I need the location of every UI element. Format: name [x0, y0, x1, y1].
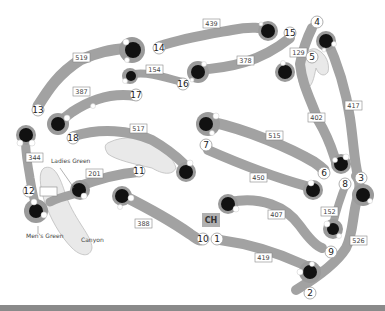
svg-text:402: 402 [310, 114, 322, 122]
svg-text:439: 439 [205, 20, 217, 28]
hole-marker-1[interactable]: 1 [211, 233, 223, 245]
fairway-hole-16 [134, 74, 182, 82]
svg-text:519: 519 [75, 54, 87, 62]
svg-text:378: 378 [239, 57, 251, 65]
hole-marker-12[interactable]: 12 [23, 185, 35, 197]
yardage-box-402: 402 [308, 113, 325, 122]
hole-marker-11[interactable]: 11 [133, 165, 145, 177]
hole-marker-6[interactable]: 6 [318, 167, 330, 179]
hole-marker-14[interactable]: 14 [153, 42, 165, 54]
svg-text:526: 526 [352, 237, 364, 245]
yardage-box-517: 517 [130, 124, 147, 133]
yardage-box-388: 388 [135, 219, 152, 228]
svg-text:515: 515 [268, 132, 280, 140]
svg-text:8: 8 [342, 179, 348, 189]
hole-marker-9[interactable]: 9 [325, 246, 337, 258]
svg-text:387: 387 [75, 88, 87, 96]
fairway-hole-14 [160, 28, 270, 46]
svg-text:152: 152 [323, 208, 335, 216]
svg-text:15: 15 [284, 28, 295, 38]
hole-marker-17[interactable]: 17 [130, 89, 142, 101]
green-hole-11 [70, 180, 90, 200]
svg-text:450: 450 [252, 174, 264, 182]
hole-marker-15[interactable]: 15 [284, 27, 296, 39]
hole-marker-4[interactable]: 4 [311, 16, 323, 28]
green-hole-16 [122, 68, 138, 84]
yardage-box-419: 419 [255, 253, 272, 262]
yardage-box-344 [40, 187, 57, 196]
yardage-box-515: 515 [266, 131, 283, 140]
green-hole-4 [275, 61, 295, 83]
green-hole-12 [16, 125, 36, 146]
svg-text:344: 344 [28, 154, 40, 162]
hole-marker-18[interactable]: 18 [67, 132, 79, 144]
green-hole-14-end [258, 21, 278, 41]
hole-marker-13[interactable]: 13 [32, 104, 44, 116]
svg-text:1: 1 [214, 234, 220, 244]
svg-text:2: 2 [307, 288, 313, 298]
green-hole-7 [303, 180, 323, 200]
svg-text:16: 16 [177, 79, 189, 89]
green-hole-13 [119, 37, 145, 63]
fairway-hole-10 [124, 196, 200, 240]
green-hole-18 [112, 186, 134, 210]
svg-text:10: 10 [197, 234, 209, 244]
svg-text:417: 417 [347, 102, 359, 110]
yardage-box-378: 378 [237, 56, 254, 65]
yardage-box-439: 439 [203, 19, 220, 28]
svg-text:6: 6 [321, 168, 327, 178]
hole-marker-5[interactable]: 5 [306, 51, 318, 63]
green-hole-2 [352, 184, 374, 206]
yardage-box-450: 450 [250, 173, 267, 182]
hole-marker-3[interactable]: 3 [355, 172, 367, 184]
hole-marker-10[interactable]: 10 [197, 233, 209, 245]
yardage-box-417: 417 [345, 101, 362, 110]
svg-text:11: 11 [133, 166, 144, 176]
hole-marker-8[interactable]: 8 [339, 178, 351, 190]
green-hole-10 [24, 199, 48, 223]
svg-text:4: 4 [314, 17, 320, 27]
hole-marker-2[interactable]: 2 [304, 287, 316, 299]
svg-text:388: 388 [137, 220, 149, 228]
golf-course-map: Ladies Green Men's Green Canyon CH 519 4… [0, 0, 385, 311]
svg-text:3: 3 [358, 173, 364, 183]
yardage-box-387: 387 [73, 87, 90, 96]
svg-text:407: 407 [270, 211, 282, 219]
yardage-box-197: 344 [26, 153, 43, 162]
svg-text:419: 419 [257, 254, 269, 262]
yardage-box-129: 129 [290, 48, 307, 57]
svg-text:12: 12 [23, 186, 34, 196]
svg-text:201: 201 [88, 170, 100, 178]
yardage-box-407: 407 [268, 210, 285, 219]
svg-text:17: 17 [130, 90, 141, 100]
svg-text:7: 7 [203, 140, 209, 150]
yardage-box-201: 201 [86, 169, 103, 178]
clubhouse-label: CH [205, 216, 218, 225]
svg-text:154: 154 [148, 66, 160, 74]
hole-marker-16[interactable]: 16 [177, 78, 189, 90]
canyon-label: Canyon [81, 236, 104, 244]
yardage-box-154: 154 [146, 65, 163, 74]
ladies-green-label: Ladies Green [51, 157, 91, 164]
svg-text:14: 14 [153, 43, 165, 53]
svg-text:13: 13 [32, 105, 43, 115]
yardage-box-526: 526 [350, 236, 367, 245]
yardage-box-152: 152 [321, 207, 338, 216]
svg-text:9: 9 [328, 247, 334, 257]
yardage-box-519: 519 [73, 53, 90, 62]
svg-text:517: 517 [132, 125, 144, 133]
green-hole-6-start [196, 112, 220, 136]
clubhouse-marker[interactable]: CH [202, 213, 220, 227]
green-hole-5 [331, 154, 351, 174]
svg-text:5: 5 [309, 52, 315, 62]
svg-text:129: 129 [292, 49, 304, 57]
green-hole-8 [323, 219, 343, 239]
mens-green-label: Men's Green [26, 232, 64, 239]
green-hole-15 [187, 61, 209, 83]
svg-text:18: 18 [67, 133, 79, 143]
hole-marker-7[interactable]: 7 [200, 139, 212, 151]
bottom-divider [0, 305, 385, 311]
